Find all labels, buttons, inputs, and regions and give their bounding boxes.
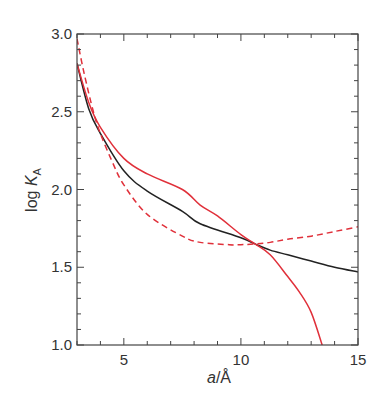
y-tick-label: 1.5 [51,258,72,275]
y-tick-label: 2.5 [51,103,72,120]
x-tick-label: 5 [120,351,128,368]
plot-series [77,39,358,345]
axis-ticks [77,34,358,345]
x-tick-label: 15 [350,351,367,368]
plot-frame [77,34,358,345]
y-tick-label: 3.0 [51,25,72,42]
y-tick-label: 1.0 [51,336,72,353]
y-tick-label: 2.0 [51,181,72,198]
series-line-0 [77,64,358,272]
series-line-2 [77,39,358,245]
tick-labels: 510151.01.52.02.53.0 [51,25,366,368]
x-axis-label: a/Å [207,368,231,386]
x-tick-label: 10 [233,351,250,368]
chart: 510151.01.52.02.53.0 a/Å log KA [0,0,391,405]
series-line-1 [77,64,322,345]
y-axis-label: log KA [23,167,43,211]
